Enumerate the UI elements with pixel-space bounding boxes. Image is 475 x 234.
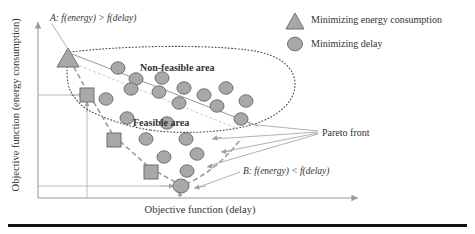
circle-marker <box>177 82 191 94</box>
circle-marker <box>172 97 186 109</box>
circle-marker <box>210 100 224 112</box>
annotation-label-a: A: f(energy) > f(delay) <box>50 13 137 23</box>
circle-marker <box>111 62 125 74</box>
y-axis-title: Objective function (energy consumption) <box>10 15 22 195</box>
triangle-marker <box>57 48 79 67</box>
legend-markers <box>286 13 304 51</box>
pareto-front-dashed-tail <box>186 140 240 184</box>
annotation-non-feasible-area: Non-feasible area <box>140 62 215 73</box>
circle-marker <box>219 82 233 94</box>
legend-triangle-marker <box>286 13 304 29</box>
annotation-label-b: B: f(energy) < f(delay) <box>243 166 330 176</box>
leader-arrowheads <box>194 137 232 188</box>
circle-marker <box>234 113 248 125</box>
circle-marker <box>152 86 166 98</box>
square-marker <box>107 133 121 147</box>
circle-marker <box>120 112 134 124</box>
annotation-pareto-front: Pareto front <box>322 127 370 138</box>
annotation-feasible-area: Feasible area <box>133 117 189 128</box>
legend-circle-marker <box>288 37 303 51</box>
leader-line-a <box>52 24 71 54</box>
square-marker <box>144 165 158 179</box>
figure-container: Objective function (energy consumption) … <box>0 0 475 234</box>
square-marker <box>80 88 94 102</box>
circle-marker <box>124 83 138 95</box>
leader-line-pareto-4 <box>208 134 318 166</box>
leader-line-pareto-1 <box>248 124 318 131</box>
circle-marker-pareto-endpoint <box>173 179 189 193</box>
leader-line-pareto-3 <box>222 133 318 152</box>
circle-marker <box>197 89 211 101</box>
leader-arrow-2 <box>221 151 232 152</box>
circle-marker <box>179 133 193 145</box>
circle-marker <box>155 72 169 84</box>
diagram-canvas <box>0 0 475 234</box>
x-axis-title: Objective function (delay) <box>85 204 315 216</box>
legend-item-label-energy: Minimizing energy consumption <box>311 14 442 25</box>
circle-marker <box>157 151 171 163</box>
circle-marker <box>99 93 113 105</box>
legend-item-label-delay: Minimizing delay <box>311 38 382 49</box>
circle-marker <box>239 95 253 107</box>
circle-marker <box>139 133 153 145</box>
bottom-divider-rule <box>8 224 467 227</box>
circle-marker <box>190 148 204 160</box>
reference-arrowheads <box>70 95 180 197</box>
leader-line-pareto-2 <box>214 132 318 139</box>
circle-marker <box>180 165 194 177</box>
